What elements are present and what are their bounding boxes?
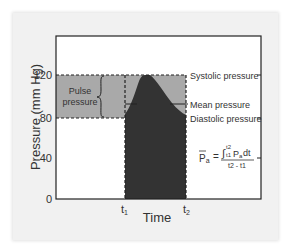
formula-upper: t2 [226,144,232,150]
pressure-diagram: 120 80 40 0 Pressure (mm Hg) t1 t2 Time … [0,0,288,250]
mean-label: Mean pressure [190,100,250,110]
pulse-pressure-label-1: Pulse [69,86,92,96]
x-axis-label: Time [143,210,171,225]
y-axis-label: Pressure (mm Hg) [28,64,43,170]
formula-denominator: t2 - t1 [228,162,246,169]
x-tick-t2: t2 [183,203,190,216]
formula-dt: dt [243,148,251,158]
systolic-label: Systolic pressure [190,71,259,81]
y-tick-0: 0 [46,193,52,205]
pulse-pressure-label-2: pressure [62,97,97,107]
formula-equals: = [213,151,219,162]
diastolic-label: Diastolic pressure [190,114,262,124]
formula-lower: t1 [226,152,232,158]
x-tick-t1: t1 [121,203,128,216]
